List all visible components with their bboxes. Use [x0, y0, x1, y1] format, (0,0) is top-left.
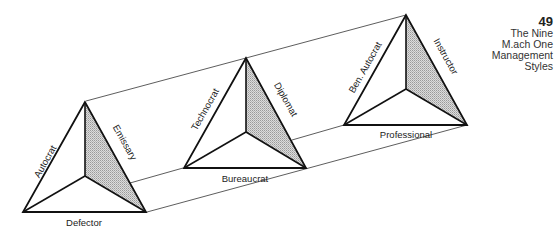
management-styles-diagram: Autocrat Emissary Defector Technocrat Di… — [0, 0, 559, 235]
edge-label-professional: Professional — [380, 129, 432, 140]
page-header: 49 The Nine M.ach One Management Styles — [492, 15, 553, 72]
edge-label-bureaucrat: Bureaucrat — [222, 173, 269, 184]
pyramid-left: Autocrat Emissary Defector — [23, 102, 146, 228]
edge-label-defector: Defector — [66, 217, 102, 228]
pyramid-middle: Technocrat Diplomat Bureaucrat — [184, 58, 306, 184]
page-title-line: Styles — [492, 61, 553, 72]
pyramid-right: Ben. Autocrat Instructor Professional — [344, 15, 467, 140]
connector-left-to-middle — [130, 168, 183, 183]
connector-middle-to-right — [292, 125, 344, 140]
